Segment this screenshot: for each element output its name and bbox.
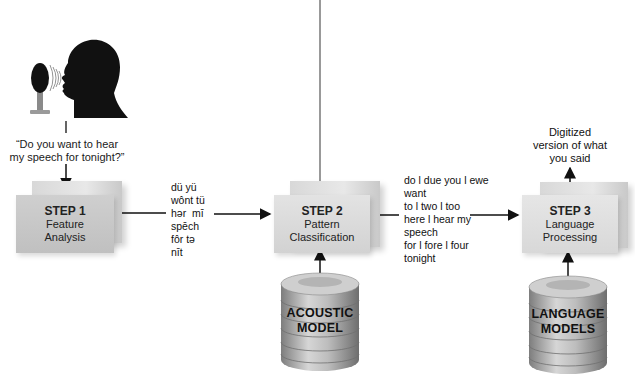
database-label-line: ACOUSTIC: [280, 306, 360, 321]
output-line: Digitized: [520, 126, 620, 139]
output-line: you said: [520, 152, 620, 165]
candidate-line: do l due you l ewe: [404, 174, 489, 187]
step-3-title: STEP 3: [549, 204, 590, 218]
step-3-line-2: Processing: [543, 231, 597, 244]
candidate-line: here l hear my: [404, 213, 489, 226]
phonetic-line: nīt: [171, 246, 205, 259]
step-1-line-2: Analysis: [45, 231, 86, 244]
step-2-title: STEP 2: [301, 204, 342, 218]
phonetic-line: fôr tə: [171, 233, 205, 246]
spoken-quote: “Do you want to hear my speech for tonig…: [0, 138, 142, 164]
phonetic-transcription: dü yü wônt tü hər mī spēch fôr tə nīt: [171, 181, 205, 259]
phonetic-line: spēch: [171, 220, 205, 233]
speaker-icon: [22, 35, 132, 125]
quote-line-1: “Do you want to hear: [0, 138, 142, 151]
candidate-words: do l due you l ewe want to l two l too h…: [404, 174, 489, 265]
database-label-line: MODEL: [280, 321, 360, 336]
step-3-line-1: Language: [546, 218, 595, 231]
database-label-line: LANGUAGE: [528, 307, 608, 322]
candidate-line: tonight: [404, 252, 489, 265]
step-2-line-2: Classification: [290, 231, 355, 244]
step-1-line-1: Feature: [46, 218, 84, 231]
phonetic-line: hər mī: [171, 207, 205, 220]
step-1-title: STEP 1: [44, 204, 85, 218]
quote-line-2: my speech for tonight?”: [0, 151, 142, 164]
candidate-line: for l fore l four: [404, 239, 489, 252]
output-line: version of what: [520, 139, 620, 152]
step-2-line-1: Pattern: [304, 218, 339, 231]
acoustic-model-database: ACOUSTIC MODEL: [280, 270, 360, 372]
candidate-line: speech: [404, 226, 489, 239]
database-label-line: MODELS: [528, 322, 608, 337]
output-text: Digitized version of what you said: [520, 126, 620, 165]
language-models-database: LANGUAGE MODELS: [528, 273, 608, 375]
candidate-line: to l two l too: [404, 200, 489, 213]
candidate-line: want: [404, 187, 489, 200]
phonetic-line: wônt tü: [171, 194, 205, 207]
phonetic-line: dü yü: [171, 181, 205, 194]
